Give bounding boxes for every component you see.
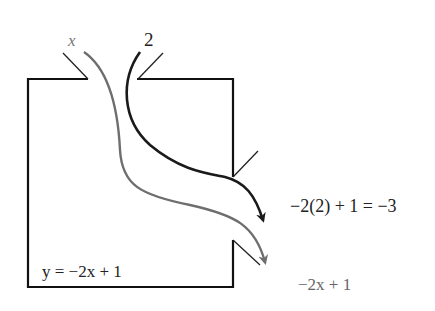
machine-box	[28, 79, 233, 287]
expression-output-label: −2x + 1	[298, 276, 351, 293]
number-path-arrow	[127, 52, 263, 220]
input-variable-label: x	[68, 32, 76, 49]
variable-path-arrow	[84, 52, 265, 262]
output-funnel	[233, 151, 260, 265]
input-number-label: 2	[144, 30, 154, 49]
input-funnel	[63, 53, 163, 79]
function-rule-label: y = −2x + 1	[42, 263, 122, 280]
evaluated-output-label: −2(2) + 1 = −3	[290, 197, 397, 215]
